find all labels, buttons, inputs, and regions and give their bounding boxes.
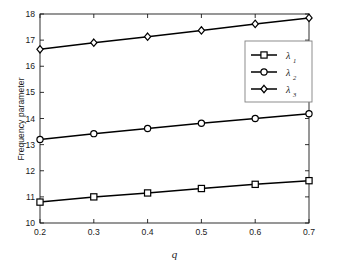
data-point-circle-marker [91, 131, 97, 137]
x-tick-label: 0.5 [195, 227, 207, 237]
data-point-square-marker [306, 178, 312, 184]
data-point-square-marker [261, 52, 267, 58]
legend-label: λ [285, 84, 291, 95]
x-tick-label: 0.2 [34, 227, 46, 237]
x-tick-label: 0.3 [88, 227, 100, 237]
y-tick-label: 13 [25, 140, 35, 150]
legend-label: λ [285, 50, 291, 61]
data-point-square-marker [37, 199, 43, 205]
y-tick-label: 16 [25, 61, 35, 71]
data-point-circle-marker [198, 120, 204, 126]
data-point-square-marker [198, 185, 204, 191]
data-point-circle-marker [145, 125, 151, 131]
data-point-diamond-marker [145, 33, 151, 40]
data-point-circle-marker [252, 115, 258, 121]
data-point-square-marker [252, 181, 258, 187]
x-tick-label: 0.4 [142, 227, 154, 237]
data-point-diamond-marker [306, 14, 312, 21]
y-tick-label: 12 [25, 166, 35, 176]
x-tick-label: 0.6 [249, 227, 261, 237]
data-point-diamond-marker [198, 27, 204, 34]
data-point-diamond-marker [91, 39, 97, 46]
data-point-square-marker [91, 194, 97, 200]
y-axis-label: Frequency parameter [16, 54, 26, 184]
series-line [40, 114, 309, 140]
data-point-circle-marker [306, 111, 312, 117]
data-point-diamond-marker [37, 46, 43, 53]
y-tick-label: 14 [25, 114, 35, 124]
series-2 [37, 111, 312, 143]
x-axis-label: q [0, 248, 349, 260]
y-tick-label: 15 [25, 87, 35, 97]
chart-figure: Frequency parameter q 101112131415161718… [0, 0, 349, 272]
data-point-diamond-marker [252, 20, 258, 27]
data-point-circle-marker [261, 69, 267, 75]
y-tick-label: 11 [26, 192, 35, 202]
plot-area: 101112131415161718 0.20.30.40.50.60.7 λ1… [0, 0, 349, 272]
data-point-square-marker [145, 190, 151, 196]
legend-label-subscript: 1 [293, 57, 296, 64]
x-tick-label: 0.7 [303, 227, 315, 237]
y-tick-label: 17 [25, 35, 35, 45]
series-line [40, 181, 309, 202]
chart-legend: λ1λ2λ3 [245, 41, 312, 102]
y-tick-label: 18 [25, 9, 35, 19]
data-point-circle-marker [37, 136, 43, 142]
legend-label: λ [285, 67, 291, 78]
series-1 [37, 178, 312, 206]
